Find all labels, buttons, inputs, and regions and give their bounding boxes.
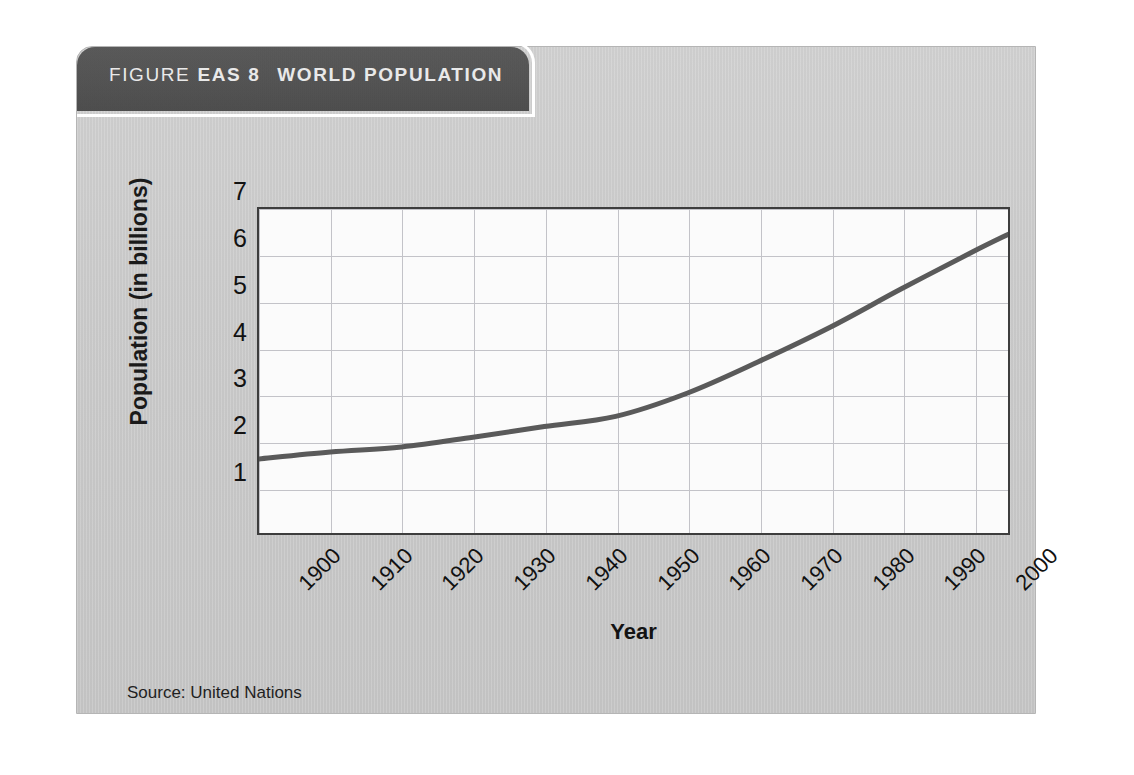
figure-card-body: FIGUREEAS 8WORLD POPULATION Population (… [76,46,1036,714]
figure-header-bar: FIGUREEAS 8WORLD POPULATION [77,47,529,111]
population-line-series [259,234,1008,458]
x-tick-label: 1910 [365,543,418,596]
population-line-chart [259,209,1008,533]
y-axis-title: Population (in billions) [126,147,153,457]
x-tick-label: 1940 [580,543,633,596]
y-tick-label: 1 [205,460,247,485]
x-tick-label: 1990 [939,543,992,596]
x-tick-label: 1930 [508,543,561,596]
plot-frame [257,207,1010,535]
chart-area: Population (in billions) 1234567 1900191… [77,111,1037,715]
x-tick-label: 1950 [652,543,705,596]
x-axis-tick-labels: 1900191019201930194019501960197019801990… [257,535,1010,615]
y-tick-label: 2 [205,413,247,438]
y-tick-label: 5 [205,272,247,297]
figure-header-text: FIGUREEAS 8WORLD POPULATION [109,64,503,86]
x-axis-title: Year [257,619,1010,645]
y-tick-label: 6 [205,225,247,250]
figure-card: FIGUREEAS 8WORLD POPULATION Population (… [66,36,1042,720]
y-tick-label: 3 [205,366,247,391]
figure-code-label: EAS 8 [197,64,260,85]
source-note: Source: United Nations [127,683,302,703]
y-axis-tick-labels: 1234567 [205,191,247,519]
x-tick-label: 1960 [724,543,777,596]
x-tick-label: 1920 [437,543,490,596]
x-tick-label: 1980 [867,543,920,596]
y-tick-label: 4 [205,319,247,344]
x-tick-label: 1900 [293,543,346,596]
figure-title-label: WORLD POPULATION [277,64,503,85]
figure-word-label: FIGURE [109,64,190,85]
x-tick-label: 2000 [1010,543,1063,596]
x-tick-label: 1970 [795,543,848,596]
y-tick-label: 7 [205,179,247,204]
